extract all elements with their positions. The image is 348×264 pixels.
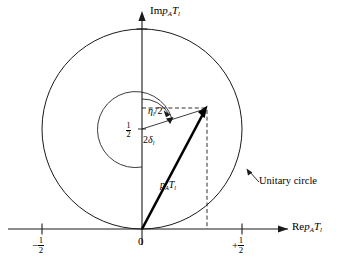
delta-angle-label: 2δl bbox=[143, 135, 154, 146]
y-axis-label: ImpATl bbox=[150, 5, 180, 18]
x-tick-minus-half-denominator: 2 bbox=[38, 246, 43, 255]
eta-suffix: /2 bbox=[155, 105, 163, 116]
delta-subscript: l bbox=[153, 139, 155, 146]
amplitude-vector-arrowhead bbox=[198, 106, 208, 119]
x-tick-label-plus-half: +12 bbox=[232, 236, 244, 254]
vector-label-t-sub: l bbox=[174, 184, 176, 191]
y-tick-label-half: 12 bbox=[126, 122, 131, 139]
eta-angle-label: ηl/2 bbox=[148, 106, 162, 117]
y-axis-arrowhead bbox=[138, 11, 145, 21]
y-tick-half-denominator: 2 bbox=[126, 131, 131, 139]
origin-label: 0 bbox=[138, 236, 144, 247]
x-axis-quantity-t-sub: l bbox=[320, 226, 322, 233]
argand-diagram-figure: ImpATl RepATl −12 +12 0 12 ηl/2 2δl pATl… bbox=[0, 0, 348, 264]
y-axis-quantity-t-sub: l bbox=[178, 10, 180, 17]
x-tick-plus-half-denominator: 2 bbox=[238, 246, 243, 255]
amplitude-vector-shaft bbox=[142, 113, 204, 229]
unitary-circle-label: Unitary circle bbox=[259, 176, 317, 187]
delta-angle-arrowhead bbox=[166, 117, 174, 124]
y-axis-label-prefix: Im bbox=[150, 4, 162, 16]
x-axis-label: RepATl bbox=[292, 221, 322, 234]
amplitude-vector-label: pATl bbox=[160, 180, 176, 191]
x-tick-label-minus-half: −12 bbox=[32, 236, 44, 254]
x-axis-arrowhead bbox=[278, 225, 288, 232]
delta-angle-arc bbox=[97, 92, 171, 168]
x-axis-label-prefix: Re bbox=[292, 220, 304, 232]
